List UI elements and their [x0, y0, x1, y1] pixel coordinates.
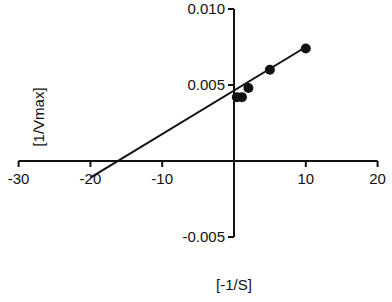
ticks: -30-20-1010200.0100.005-0.005: [8, 0, 386, 245]
y-tick-label: 0.010: [187, 0, 225, 17]
data-point: [265, 65, 275, 75]
y-axis-title: [1/Vmax]: [30, 87, 47, 146]
data-point: [243, 83, 253, 93]
x-tick-label: -30: [8, 170, 30, 187]
x-axis-title: [-1/S]: [216, 276, 252, 293]
x-tick-label: 10: [297, 170, 314, 187]
x-tick-label: 20: [369, 170, 386, 187]
x-tick-label: -10: [151, 170, 173, 187]
lineweaver-burk-plot: -30-20-1010200.0100.005-0.005 [-1/S] [1/…: [0, 0, 392, 302]
data-point: [301, 44, 311, 54]
axes: [19, 9, 378, 237]
y-tick-label: 0.005: [187, 76, 225, 93]
y-tick-label: -0.005: [182, 228, 225, 245]
data-point: [237, 92, 247, 102]
